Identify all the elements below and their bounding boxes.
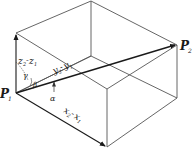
p1-subscript: 1 xyxy=(8,95,12,102)
p2-subscript: 2 xyxy=(187,47,192,54)
box-edges xyxy=(16,1,177,147)
label-p1: P 1 xyxy=(0,87,12,102)
edge-top-right xyxy=(91,1,177,45)
box-vector-diagram: P 1 P 2 z 2 - z 1 y 2 - y 1 x 2 - x 1 γ … xyxy=(0,0,195,154)
x-component-arrow xyxy=(16,93,105,146)
edge-bottom-right xyxy=(107,98,177,147)
label-z-diff: z 2 - z 1 xyxy=(17,56,37,67)
label-p2: P 2 xyxy=(179,39,192,54)
beta-label: β xyxy=(32,81,37,89)
edge-top-left xyxy=(16,1,91,33)
edge-back-bottom-right xyxy=(91,56,177,98)
edge-top-front-right xyxy=(107,45,177,89)
beta-angle-arc xyxy=(30,78,32,86)
alpha-label: α xyxy=(50,94,56,103)
component-vectors xyxy=(16,35,105,146)
label-y-diff: y 2 - y 1 xyxy=(50,59,74,78)
gamma-label: γ xyxy=(23,71,28,80)
z1-sub: 1 xyxy=(34,61,37,67)
